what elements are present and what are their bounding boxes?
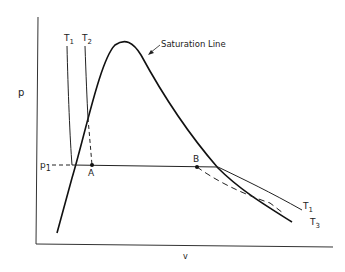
T1-top-label: T1 bbox=[63, 33, 74, 46]
T3-right-sub: 3 bbox=[316, 222, 320, 230]
saturation-line bbox=[57, 42, 292, 233]
x-axis-label: v bbox=[183, 252, 188, 261]
p1-sub: 1 bbox=[46, 164, 51, 173]
y-axis bbox=[36, 17, 38, 244]
isotherm-T2-metastable bbox=[88, 118, 92, 165]
pv-diagram: p v Saturation Line A B p1 T1 T2 T1 T3 bbox=[0, 0, 345, 272]
T3-right-label: T3 bbox=[309, 217, 320, 230]
T1-right-sub: 1 bbox=[309, 206, 313, 214]
saturation-line-label: Saturation Line bbox=[161, 39, 226, 49]
T1-top-sub: 1 bbox=[70, 38, 74, 46]
y-axis-label: p bbox=[18, 87, 24, 98]
point-A-label: A bbox=[88, 168, 95, 178]
p1-label: p1 bbox=[40, 160, 51, 173]
isotherm-T1-liquid bbox=[67, 46, 72, 165]
T2-top-label: T2 bbox=[81, 33, 92, 46]
isotherm-T3-metastable bbox=[197, 167, 283, 213]
isotherm-T1-vapor bbox=[218, 167, 302, 210]
point-B bbox=[195, 165, 199, 169]
isotherm-T2-liquid bbox=[85, 46, 88, 118]
T2-top-sub: 2 bbox=[88, 38, 92, 46]
point-B-label: B bbox=[193, 154, 199, 164]
point-A bbox=[90, 163, 94, 167]
T1-right-label: T1 bbox=[302, 201, 313, 214]
x-axis bbox=[36, 244, 333, 247]
